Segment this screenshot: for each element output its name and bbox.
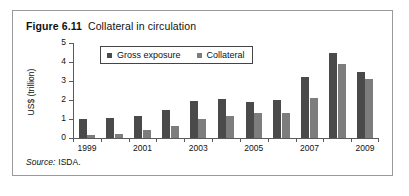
y-axis-tick-label: 4 xyxy=(61,56,66,67)
bar-collateral-2008 xyxy=(338,64,346,138)
bar-collateral-2007 xyxy=(310,98,318,138)
bar-collateral-1999 xyxy=(87,135,95,138)
bar-collateral-2004 xyxy=(226,116,234,138)
y-axis-tick: 4 xyxy=(69,62,73,63)
bar-collateral-2005 xyxy=(254,113,262,138)
y-axis-tick: 2 xyxy=(69,100,73,101)
x-axis-tick xyxy=(296,139,297,142)
bar-gross-exposure-2005 xyxy=(246,102,254,138)
legend-item-gross-exposure: Gross exposure xyxy=(107,50,181,60)
x-axis-tick-label: 2005 xyxy=(244,143,263,153)
y-axis-tick-label: 5 xyxy=(61,37,66,48)
bar-gross-exposure-2002 xyxy=(162,110,170,139)
x-axis-tick xyxy=(240,139,241,142)
source-keyword: Source: xyxy=(26,157,55,167)
bar-collateral-2000 xyxy=(115,134,123,138)
x-axis-tick-label: 2007 xyxy=(300,143,319,153)
y-axis-tick-label: 2 xyxy=(61,94,66,105)
bar-gross-exposure-2009 xyxy=(357,72,365,138)
figure-number: Figure 6.11 xyxy=(26,20,82,32)
legend-label-gross-exposure: Gross exposure xyxy=(117,50,181,60)
x-axis-tick xyxy=(73,139,74,142)
y-axis-tick-label: 1 xyxy=(61,113,66,124)
figure-title: Figure 6.11Collateral in circulation xyxy=(26,20,196,32)
bar-gross-exposure-2006 xyxy=(273,100,281,138)
source-note: Source:ISDA. xyxy=(26,157,81,167)
x-axis-tick xyxy=(101,139,102,142)
bar-gross-exposure-1999 xyxy=(79,119,87,138)
x-axis-tick-label: 2003 xyxy=(189,143,208,153)
x-axis-tick xyxy=(184,139,185,142)
x-axis-tick-label: 1999 xyxy=(77,143,96,153)
bar-collateral-2001 xyxy=(143,130,151,138)
x-axis-tick xyxy=(378,139,379,142)
x-axis-tick-label: 2001 xyxy=(133,143,152,153)
legend-swatch-icon-gross-exposure xyxy=(107,53,112,58)
legend-label-collateral: Collateral xyxy=(207,50,245,60)
x-axis-tick xyxy=(351,139,352,142)
bar-gross-exposure-2004 xyxy=(218,99,226,138)
bar-collateral-2009 xyxy=(365,79,373,138)
x-axis-line xyxy=(73,138,379,139)
x-axis-tick xyxy=(212,139,213,142)
y-axis-tick: 1 xyxy=(69,119,73,120)
legend-item-collateral: Collateral xyxy=(197,50,245,60)
x-axis-tick xyxy=(156,139,157,142)
figure-caption: Collateral in circulation xyxy=(88,20,196,32)
x-axis-tick xyxy=(268,139,269,142)
x-axis-tick xyxy=(129,139,130,142)
bar-chart: US$ (trillion) 012345 199920012003200520… xyxy=(13,39,394,151)
plot-area: 012345 199920012003200520072009 Gross ex… xyxy=(73,43,379,139)
bar-gross-exposure-2003 xyxy=(190,101,198,138)
x-axis-tick-label: 2009 xyxy=(356,143,375,153)
source-value: ISDA. xyxy=(58,157,80,167)
bar-collateral-2006 xyxy=(282,113,290,138)
y-axis-tick: 3 xyxy=(69,81,73,82)
bar-gross-exposure-2008 xyxy=(329,53,337,139)
bar-gross-exposure-2000 xyxy=(106,118,114,138)
y-axis-label: US$ (trillion) xyxy=(26,52,36,132)
bar-collateral-2003 xyxy=(198,119,206,138)
bar-gross-exposure-2001 xyxy=(134,116,142,138)
bar-gross-exposure-2007 xyxy=(301,77,309,138)
x-axis-tick xyxy=(323,139,324,142)
figure-container: Figure 6.11Collateral in circulation US$… xyxy=(12,10,393,176)
legend-swatch-icon-collateral xyxy=(197,53,202,58)
y-axis-tick-label: 0 xyxy=(61,132,66,143)
y-axis-line xyxy=(73,43,74,139)
y-axis-tick: 5 xyxy=(69,43,73,44)
bar-collateral-2002 xyxy=(171,126,179,138)
y-axis-tick-label: 3 xyxy=(61,75,66,86)
chart-legend: Gross exposure Collateral xyxy=(100,46,253,64)
